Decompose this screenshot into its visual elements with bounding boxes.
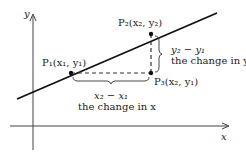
p3-label: P₃(x₂, y₁): [154, 76, 198, 87]
run-description: the change in x: [78, 101, 156, 112]
point-p1: [69, 71, 73, 75]
run-brace: [73, 77, 149, 84]
point-p2: [149, 32, 153, 36]
y-axis: [30, 14, 36, 150]
y-axis-label: y: [24, 8, 30, 19]
x-axis-label: x: [221, 131, 227, 142]
p1-label: P₁(x₁, y₁): [42, 57, 86, 68]
rise-description: the change in y: [171, 55, 246, 66]
rise-expression: y₂ − y₁: [171, 44, 205, 55]
rise-brace: [155, 36, 162, 72]
point-p3: [149, 71, 153, 75]
x-axis: [10, 123, 229, 129]
run-expression: x₂ − x₁: [94, 90, 128, 101]
p2-label: P₂(x₂, y₂): [118, 17, 162, 28]
slope-diagram: y x P₁(x₁, y₁) P₂(x₂, y₂) P₃(x₂, y₁) y₂ …: [0, 0, 246, 155]
